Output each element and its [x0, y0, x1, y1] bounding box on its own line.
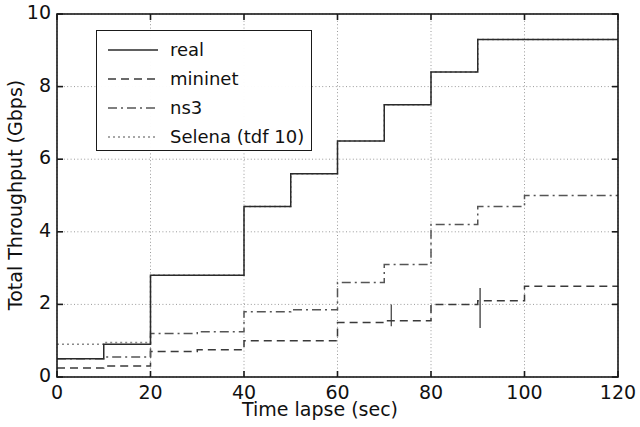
legend-label: Selena (tdf 10)	[170, 126, 304, 147]
chart-figure: Total Throughput (Gbps) Time lapse (sec)…	[0, 0, 640, 427]
y-tick-label: 2	[15, 291, 51, 313]
x-tick-label: 80	[407, 381, 455, 403]
legend-entry: Selena (tdf 10)	[97, 122, 311, 151]
chart-legend: realmininetns3Selena (tdf 10)	[96, 30, 312, 151]
legend-line-sample	[106, 40, 160, 60]
y-tick-label: 10	[15, 1, 51, 23]
x-tick-label: 120	[594, 381, 640, 403]
y-axis-label: Total Throughput (Gbps)	[4, 80, 26, 310]
x-tick-label: 0	[33, 381, 81, 403]
x-tick-label: 60	[314, 381, 362, 403]
legend-label: real	[170, 39, 204, 60]
legend-entry: ns3	[97, 93, 311, 122]
y-tick-label: 8	[15, 74, 51, 96]
legend-line-sample	[106, 127, 160, 147]
x-tick-label: 40	[220, 381, 268, 403]
legend-line-sample	[106, 98, 160, 118]
y-tick-label: 4	[15, 219, 51, 241]
x-tick-label: 100	[501, 381, 549, 403]
y-axis-label-container: Total Throughput (Gbps)	[0, 0, 30, 390]
legend-label: ns3	[170, 97, 202, 118]
legend-label: mininet	[170, 68, 238, 89]
legend-entry: mininet	[97, 64, 311, 93]
y-tick-label: 6	[15, 146, 51, 168]
legend-entry: real	[97, 35, 311, 64]
legend-line-sample	[106, 69, 160, 89]
x-tick-label: 20	[127, 381, 175, 403]
